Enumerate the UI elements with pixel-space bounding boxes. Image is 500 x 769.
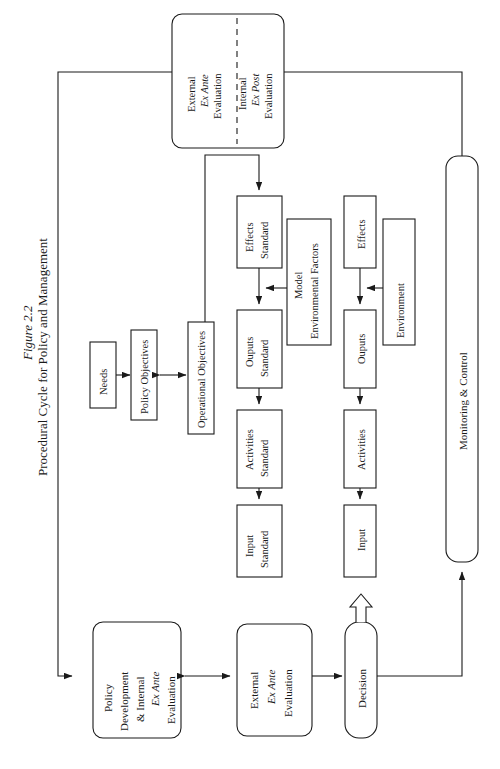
figure-caption: Procedural Cycle for Policy and Manageme…	[35, 238, 50, 476]
label-outputs-standard-line2: Standard	[259, 339, 270, 377]
label-external-evaluation-line2: Ex Ante	[265, 670, 277, 705]
label-evaluation-internal-line2: Ex Post	[250, 73, 261, 107]
label-effects-standard-line1: Effects	[244, 222, 255, 252]
label-activities-standard-line2: Standard	[259, 439, 270, 477]
label-input: Input	[356, 529, 367, 551]
label-model-line1: Model	[293, 272, 304, 299]
label-evaluation-internal-line3: Evaluation	[263, 73, 274, 119]
label-evaluation-external-line1: External	[186, 76, 197, 112]
figure-canvas: Figure 2.2 Procedural Cycle for Policy a…	[0, 0, 500, 769]
connector-decision-to-monitoring	[377, 572, 462, 676]
label-external-evaluation-line1: External	[248, 672, 260, 709]
label-policy-development-line4: Ex Ante	[149, 672, 161, 707]
label-policy-objectives: Policy Objectives	[139, 340, 150, 414]
decision-outline-arrow-icon	[350, 594, 372, 622]
label-outputs-standard-line1: Ouputs	[244, 337, 255, 367]
label-operational-objectives: Operational Objectives	[196, 331, 207, 428]
label-activities: Activities	[356, 429, 367, 470]
label-evaluation-internal-line1: Internal	[237, 77, 248, 110]
label-monitoring-control: Monitoring & Control	[457, 352, 469, 450]
figure-number: Figure 2.2	[20, 305, 35, 361]
label-decision: Decision	[356, 668, 368, 708]
label-policy-development-line1: Policy	[102, 683, 114, 712]
label-effects-standard-line2: Standard	[259, 221, 270, 259]
connector-evaluation-to-monitoring	[284, 72, 462, 156]
label-outputs: Ouputs	[356, 334, 367, 364]
label-policy-development-line5: Evaluation	[165, 676, 177, 724]
label-policy-development-line3: & Internal	[134, 676, 146, 722]
label-input-standard-line1: Input	[244, 535, 255, 557]
label-evaluation-external-line2: Ex Ante	[199, 74, 210, 108]
label-input-standard-line2: Standard	[259, 530, 270, 568]
label-effects: Effects	[356, 219, 367, 249]
label-needs: Needs	[98, 369, 109, 395]
label-evaluation-external-line3: Evaluation	[212, 73, 223, 119]
label-environment: Environment	[395, 283, 406, 338]
label-activities-standard-line1: Activities	[244, 429, 255, 470]
label-model-line2: Environmental Factors	[309, 243, 320, 339]
label-policy-development-line2: Development	[118, 672, 130, 731]
label-external-evaluation-line3: Evaluation	[282, 669, 294, 717]
procedural-cycle-diagram: Figure 2.2 Procedural Cycle for Policy a…	[0, 0, 500, 769]
